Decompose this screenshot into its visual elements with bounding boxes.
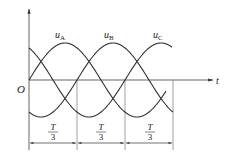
svg-text:3: 3: [51, 132, 56, 142]
label-u-a: uA: [55, 29, 65, 42]
origin-label: O: [17, 83, 25, 95]
svg-text:3: 3: [99, 132, 104, 142]
svg-text:3: 3: [148, 132, 153, 142]
svg-text:T: T: [147, 122, 153, 132]
svg-text:T: T: [98, 122, 104, 132]
interval-label-1: T 3: [48, 122, 58, 142]
interval-label-2: T 3: [96, 122, 106, 142]
t-axis-label: t: [216, 75, 219, 86]
three-phase-waveform-diagram: uA uB uC O t T 3 T 3 T 3: [0, 0, 228, 162]
interval-label-3: T 3: [145, 122, 155, 142]
svg-text:T: T: [50, 122, 56, 132]
label-u-c: uC: [153, 29, 163, 42]
label-u-b: uB: [104, 29, 114, 42]
